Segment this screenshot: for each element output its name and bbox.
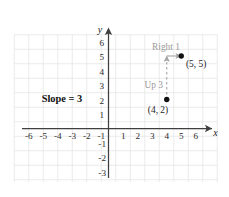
x-tick-1: 1: [121, 131, 126, 141]
x-tick-labels: -6 -5 -4 -3 -2 -1 1 2 3 4 5 6: [25, 131, 199, 141]
right-run-label: Right 1: [152, 42, 180, 52]
x-tick-5: 5: [179, 131, 184, 141]
y-tick--1: -1: [98, 139, 106, 149]
grid-lines: [14, 35, 217, 183]
graph-figure: y x -6 -5 -4 -3 -2 -1 1 2 3 4 5 6 6 5 4 …: [0, 0, 229, 197]
x-tick--2: -2: [83, 131, 91, 141]
y-tick-2: 2: [99, 96, 104, 106]
y-tick--3: -3: [98, 168, 106, 178]
x-tick-3: 3: [150, 131, 155, 141]
y-tick-6: 6: [99, 38, 104, 48]
y-axis-label: y: [97, 24, 103, 35]
x-tick--4: -4: [54, 131, 62, 141]
y-tick-1: 1: [99, 110, 104, 120]
up-rise-label: Up 3: [145, 80, 164, 90]
x-axis-label: x: [212, 127, 218, 138]
x-tick-4: 4: [164, 131, 169, 141]
y-tick--2: -2: [98, 153, 106, 163]
coordinate-plane-svg: y x -6 -5 -4 -3 -2 -1 1 2 3 4 5 6 6 5 4 …: [0, 0, 229, 197]
point-label-high: (5, 5): [186, 59, 206, 70]
x-tick--3: -3: [68, 131, 76, 141]
point-4-2: [164, 97, 169, 102]
x-tick--6: -6: [25, 131, 33, 141]
x-tick-2: 2: [135, 131, 140, 141]
y-tick-5: 5: [99, 52, 104, 62]
x-tick-6: 6: [193, 131, 198, 141]
y-tick-3: 3: [99, 81, 104, 91]
point-label-low: (4, 2): [148, 105, 168, 116]
y-tick-4: 4: [99, 67, 104, 77]
slope-label: Slope = 3: [42, 93, 83, 104]
point-5-5: [179, 53, 184, 58]
x-tick--5: -5: [39, 131, 47, 141]
